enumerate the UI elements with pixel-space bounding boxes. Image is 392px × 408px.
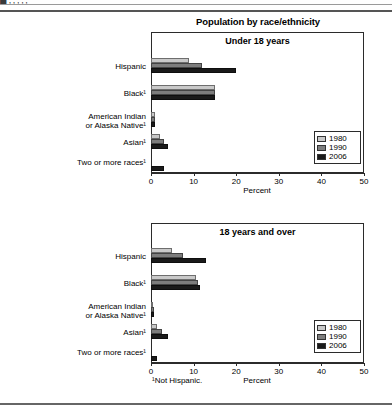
bar [151,166,164,171]
x-axis-tick-label: 0 [141,367,161,376]
legend-label: 2006 [329,341,347,350]
category-label-line: Two or more races¹ [0,348,146,357]
header-rule-thick [0,10,392,12]
panel-title-under-18: Under 18 years [151,36,364,46]
header-rule-thin [0,4,392,5]
panel-title-18-and-over: 18 years and over [151,227,364,237]
category-label-line: or Alaska Native¹ [0,311,146,320]
legend-swatch [317,136,326,142]
legend-item: 2006 [317,152,357,161]
legend-item: 1990 [317,143,357,152]
x-axis-tick-label: 50 [354,367,374,376]
x-axis-line-under-18 [151,173,364,174]
legend-swatch [317,325,326,331]
legend-item: 2006 [317,341,357,350]
bar [151,312,154,317]
legend-under-18: 198019902006 [314,131,361,164]
legend-swatch [317,343,326,349]
legend-label: 1990 [329,332,347,341]
bar [151,95,215,100]
category-label: American Indianor Alaska Native¹ [0,302,146,320]
legend-label: 1990 [329,143,347,152]
x-axis-tick [279,363,280,366]
bar [151,258,206,263]
x-axis-tick-label: 10 [184,177,204,186]
legend-18-and-over: 198019902006 [314,320,361,353]
footnote-not-hispanic: ¹Not Hispanic. [152,376,202,385]
x-axis-tick [321,363,322,366]
x-axis-tick [236,363,237,366]
x-axis-tick [279,173,280,176]
x-axis-tick [151,173,152,176]
category-label: Black¹ [0,89,146,98]
legend-item: 1980 [317,323,357,332]
bar [151,68,236,73]
x-axis-tick-label: 0 [141,177,161,186]
category-label-line: Hispanic [0,62,146,71]
x-axis-tick-label: 20 [226,177,246,186]
x-axis-tick-label: 10 [184,367,204,376]
legend-label: 2006 [329,152,347,161]
legend-swatch [317,154,326,160]
footer-rule [0,403,392,405]
x-axis-tick [364,173,365,176]
x-axis-tick-label: 40 [311,367,331,376]
x-axis-tick [236,173,237,176]
x-axis-line-18-and-over [151,363,364,364]
legend-item: 1990 [317,332,357,341]
category-label: Two or more races¹ [0,348,146,357]
x-axis-tick-label: 30 [269,367,289,376]
page-title: Population by race/ethnicity [151,16,365,27]
x-axis-title-18-and-over: Percent [227,376,287,385]
x-axis-tick [194,363,195,366]
category-label: Asian¹ [0,328,146,337]
category-label-line: Hispanic [0,252,146,261]
x-axis-tick [364,363,365,366]
legend-label: 1980 [329,134,347,143]
category-label: Asian¹ [0,138,146,147]
category-label: Two or more races¹ [0,158,146,167]
category-label-line: Black¹ [0,89,146,98]
category-label-line: American Indian [0,112,146,121]
x-axis-title-under-18: Percent [227,186,287,195]
legend-swatch [317,334,326,340]
legend-item: 1980 [317,134,357,143]
category-label-line: Asian¹ [0,138,146,147]
bar [151,334,168,339]
category-label: Black¹ [0,279,146,288]
category-label-line: Black¹ [0,279,146,288]
category-label-line: Two or more races¹ [0,158,146,167]
category-label-line: or Alaska Native¹ [0,121,146,130]
category-label: Hispanic [0,252,146,261]
x-axis-tick-label: 50 [354,177,374,186]
category-label: American Indianor Alaska Native¹ [0,112,146,130]
x-axis-tick-label: 30 [269,177,289,186]
bar [151,144,168,149]
x-axis-tick [321,173,322,176]
category-label-line: Asian¹ [0,328,146,337]
x-axis-tick-label: 20 [226,367,246,376]
bar [151,356,157,361]
legend-swatch [317,145,326,151]
bar [151,285,200,290]
x-axis-tick [151,363,152,366]
category-label: Hispanic [0,62,146,71]
legend-label: 1980 [329,323,347,332]
x-axis-tick [194,173,195,176]
category-label-line: American Indian [0,302,146,311]
bar [151,122,155,127]
x-axis-tick-label: 40 [311,177,331,186]
